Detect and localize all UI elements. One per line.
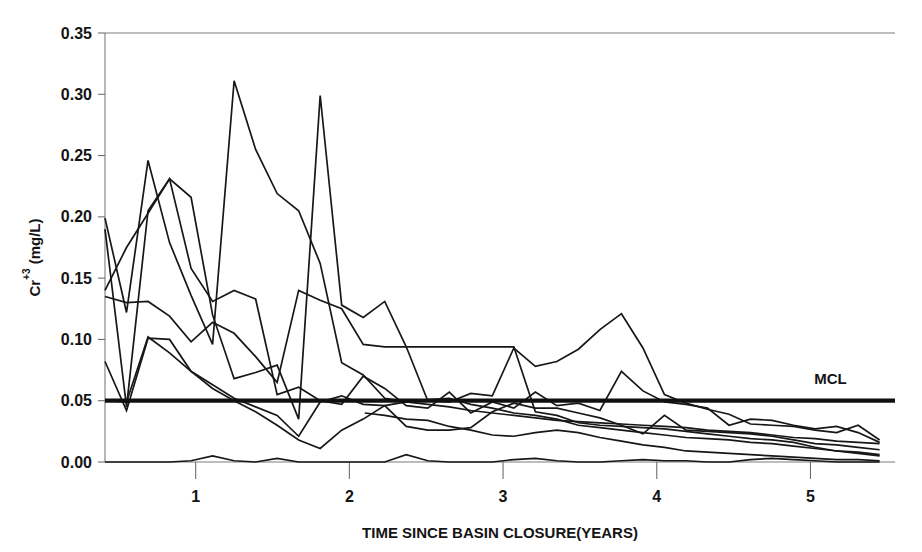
svg-text:Cr+3 (mg/L): Cr+3 (mg/L) (21, 218, 44, 296)
chart-container: 0.000.050.100.150.200.250.300.35 12345 M… (0, 0, 922, 552)
x-tick-label: 1 (191, 488, 200, 505)
x-tick-label: 5 (806, 488, 815, 505)
y-axis-tick-marks (98, 33, 105, 462)
x-tick-label: 2 (345, 488, 354, 505)
y-tick-label: 0.30 (61, 86, 92, 103)
y-axis-title: Cr+3 (mg/L) (21, 218, 44, 296)
y-tick-label: 0.05 (61, 392, 92, 409)
data-series-group (105, 81, 880, 462)
y-tick-label: 0.15 (61, 270, 92, 287)
y-tick-label: 0.20 (61, 208, 92, 225)
series-line (105, 96, 880, 440)
y-tick-label: 0.35 (61, 25, 92, 42)
x-axis-tick-marks (196, 462, 811, 479)
mcl-annotation-label: MCL (814, 370, 847, 387)
x-axis-title: TIME SINCE BASIN CLOSURE(YEARS) (362, 524, 638, 541)
annotations-group: MCL (814, 370, 847, 387)
series-line (105, 290, 880, 455)
series-line (105, 179, 880, 443)
x-tick-label: 3 (499, 488, 508, 505)
y-tick-label: 0.00 (61, 454, 92, 471)
x-tick-label: 4 (652, 488, 661, 505)
axis-frame (105, 33, 895, 462)
y-axis-tick-labels: 0.000.050.100.150.200.250.300.35 (61, 25, 92, 471)
y-tick-label: 0.10 (61, 331, 92, 348)
series-line (365, 413, 880, 461)
y-tick-label: 0.25 (61, 147, 92, 164)
line-chart-svg: 0.000.050.100.150.200.250.300.35 12345 M… (0, 0, 922, 552)
x-axis-tick-labels: 12345 (191, 488, 815, 505)
